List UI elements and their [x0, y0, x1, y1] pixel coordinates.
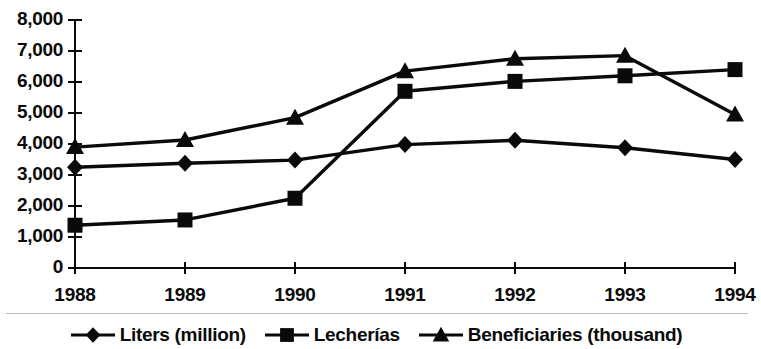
chart-legend: Liters (million)LecheríasBeneficiaries (…: [0, 320, 752, 349]
y-axis-label: 5,000: [17, 101, 63, 123]
y-axis-label: 7,000: [17, 39, 63, 61]
y-axis-label: 3,000: [17, 163, 63, 185]
x-axis-label: 1992: [465, 284, 565, 306]
legend-marker-triangle-icon: [418, 325, 464, 345]
x-axis-label: 1988: [25, 284, 125, 306]
legend-label: Liters (million): [120, 324, 246, 346]
y-axis-label: 4,000: [17, 132, 63, 154]
legend-label: Lecherías: [314, 324, 400, 346]
y-axis-label: 0: [53, 256, 63, 278]
legend-item: Liters (million): [70, 324, 246, 346]
footer-divider: [6, 313, 748, 314]
y-axis-label: 2,000: [17, 194, 63, 216]
y-axis-label: 1,000: [17, 225, 63, 247]
y-axis-label: 8,000: [17, 8, 63, 30]
x-axis-label: 1990: [245, 284, 345, 306]
legend-item: Beneficiaries (thousand): [418, 324, 683, 346]
x-axis-label: 1989: [135, 284, 235, 306]
x-axis-label: 1991: [355, 284, 455, 306]
x-axis-label: 1994: [685, 284, 761, 306]
legend-marker-square-icon: [264, 325, 310, 345]
series-markers-diamond: [67, 132, 743, 176]
x-axis-label: 1993: [575, 284, 675, 306]
legend-marker-diamond-icon: [70, 325, 116, 345]
y-axis-label: 6,000: [17, 70, 63, 92]
legend-label: Beneficiaries (thousand): [468, 324, 683, 346]
legend-item: Lecherías: [264, 324, 400, 346]
